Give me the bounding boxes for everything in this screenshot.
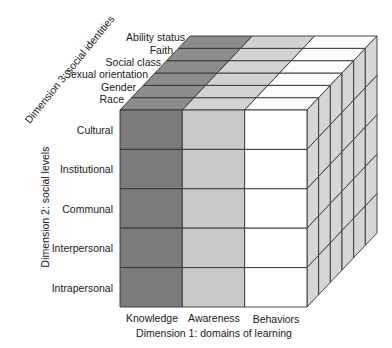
top-cell (178, 36, 252, 48)
layer-label-social-class: Social class (106, 56, 161, 68)
top-cell (167, 48, 241, 60)
front-cell (120, 149, 182, 188)
top-cell (245, 98, 319, 110)
column-label-behaviors: Behaviors (244, 313, 308, 325)
layer-label-sexual-orientation: Sexual orientation (64, 68, 148, 80)
layer-label-gender: Gender (101, 81, 136, 93)
front-cell (245, 149, 307, 188)
top-cell (206, 73, 280, 85)
front-cell (182, 149, 244, 188)
front-cell (245, 189, 307, 228)
front-cell (182, 189, 244, 228)
front-cell (245, 110, 307, 149)
front-cell (245, 228, 307, 267)
layer-label-faith: Faith (150, 44, 173, 56)
column-label-awareness: Awareness (182, 312, 246, 324)
top-cell (182, 98, 256, 110)
front-cell (182, 110, 244, 149)
front-cell (182, 268, 244, 307)
cube-diagram (0, 0, 392, 348)
top-cell (268, 73, 342, 85)
top-cell (132, 85, 206, 97)
front-cell (120, 110, 182, 149)
front-cell (120, 189, 182, 228)
top-cell (143, 73, 217, 85)
top-cell (280, 61, 354, 73)
top-cell (194, 85, 268, 97)
dimension2-axis-title: Dimension 2: social levels (39, 142, 51, 272)
layer-label-race: Race (99, 93, 124, 105)
dimension1-axis-title: Dimension 1: domains of learning (120, 327, 308, 339)
top-cell (155, 61, 229, 73)
top-cell (229, 48, 303, 60)
front-cell (120, 268, 182, 307)
top-cell (120, 98, 194, 110)
row-label-cultural: Cultural (77, 124, 113, 136)
front-cell (182, 228, 244, 267)
top-cell (303, 36, 377, 48)
row-label-intrapersonal: Intrapersonal (52, 282, 113, 294)
layer-label-ability-status: Ability status (126, 31, 185, 43)
front-cell (120, 228, 182, 267)
row-label-communal: Communal (62, 203, 113, 215)
front-cell (245, 268, 307, 307)
top-cell (291, 48, 365, 60)
top-cell (256, 85, 330, 97)
top-cell (217, 61, 291, 73)
row-label-institutional: Institutional (60, 163, 113, 175)
top-cell (241, 36, 315, 48)
column-label-knowledge: Knowledge (120, 312, 184, 324)
row-label-interpersonal: Interpersonal (52, 242, 113, 254)
